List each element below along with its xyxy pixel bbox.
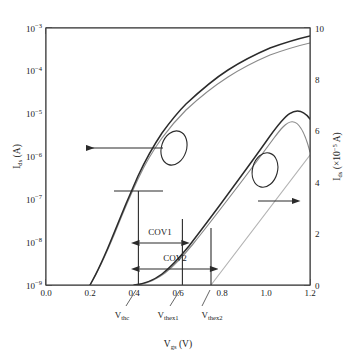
cov2-label: COV2	[163, 253, 187, 263]
cov1-label: COV1	[148, 227, 172, 237]
right-tick-label: 2	[315, 229, 320, 239]
left-tick-label: 10−3	[26, 22, 43, 34]
vthex1-label: Vthex1	[157, 310, 178, 321]
x-tick-label: 0.2	[84, 288, 95, 298]
vthex2-leader	[202, 290, 210, 306]
chart-figure: 0.0 0.2 0.4 0.6 0.8 1.0 1.2	[0, 0, 351, 364]
right-tick-label: 8	[315, 75, 320, 85]
left-axis-title: Ids (A)	[12, 144, 23, 169]
right-tick-labels: 10 8 6 4 2 0	[315, 24, 325, 291]
right-axis-title: Ids (×10−5 A)	[331, 132, 344, 180]
vthc-label: Vthc	[115, 310, 130, 321]
right-tick-label: 0	[315, 281, 320, 291]
left-tick-label: 10−4	[26, 65, 43, 77]
left-tick-label: 10−5	[26, 108, 43, 120]
x-tick-label: 0.0	[40, 288, 52, 298]
left-tick-label: 10−6	[26, 151, 43, 163]
x-tick-label: 1.2	[304, 288, 315, 298]
x-axis-title: Vgs (V)	[164, 339, 192, 350]
x-tick-label: 0.8	[216, 288, 228, 298]
chart-svg: 0.0 0.2 0.4 0.6 0.8 1.0 1.2	[0, 0, 351, 364]
right-tick-label: 4	[315, 178, 320, 188]
right-tick-label: 6	[315, 126, 320, 136]
x-tick-label: 1.0	[260, 288, 272, 298]
right-tick-label: 10	[315, 24, 325, 34]
left-tick-label: 10−8	[26, 236, 43, 248]
left-tick-labels: 10−3 10−4 10−5 10−6 10−7 10−8 10−9	[26, 22, 43, 291]
vthex2-label: Vthex2	[201, 310, 222, 321]
chart-curves	[46, 28, 310, 285]
left-tick-label: 10−7	[26, 193, 43, 205]
